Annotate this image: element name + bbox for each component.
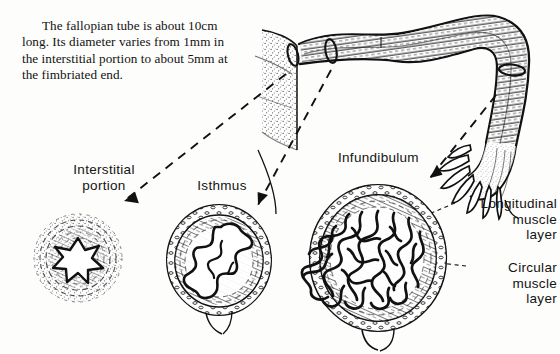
- label-infundibulum: Infundibulum: [338, 150, 462, 166]
- label-longitudinal-muscle-layer: Longitudinal muscle layer: [461, 196, 557, 243]
- label-interstitial-portion: Interstitial portion: [52, 162, 156, 193]
- figure-caption: The fallopian tube is about 10cm long. I…: [22, 18, 237, 84]
- label-circular-muscle-layer: Circular muscle layer: [471, 260, 557, 307]
- label-isthmus: Isthmus: [178, 178, 266, 194]
- fallopian-tube-figure: The fallopian tube is about 10cm long. I…: [0, 0, 560, 354]
- interstitial-cross-section: [34, 214, 122, 302]
